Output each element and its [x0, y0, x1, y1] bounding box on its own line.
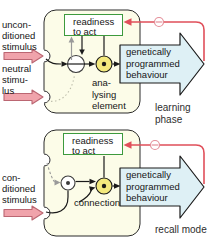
label-line: stimulus	[2, 194, 37, 205]
readiness-to-act-box-bottom: readiness to act	[63, 133, 123, 155]
readiness-to-act-box-top: readiness to act	[64, 14, 123, 36]
caption-line: learning	[155, 102, 191, 114]
unconditioned-stimulus-label: uncon- ditioned stimulus	[2, 19, 37, 52]
readiness-line2: to act	[72, 146, 122, 156]
analysing-element-label: ana- lysing element	[92, 77, 126, 112]
label-line: genetically	[126, 46, 180, 58]
label-line: programmed	[126, 181, 180, 193]
minus-circle-icon	[151, 141, 160, 150]
minus-circle-icon	[155, 18, 164, 27]
label-line: behaviour	[126, 69, 180, 81]
label-line: element	[92, 100, 126, 112]
label-line: genetically	[126, 169, 180, 181]
label-line: behaviour	[126, 192, 180, 204]
neutral-stimulus-label: neutral stimu- lus	[2, 63, 31, 96]
label-line: stimulus	[2, 41, 37, 52]
label-line: ana-	[92, 77, 126, 89]
label-line: con-	[2, 172, 37, 183]
label-line: uncon-	[2, 19, 37, 30]
connection-dot	[66, 181, 70, 185]
label-line: lus	[2, 85, 31, 96]
behaviour-label-top: genetically programmed behaviour	[126, 46, 180, 81]
label-line: stimu-	[2, 74, 31, 85]
learning-phase-caption: learning phase	[155, 102, 191, 126]
readiness-line2: to act	[73, 27, 122, 37]
conditioned-stimulus-label: con- ditioned stimulus	[2, 172, 37, 205]
conditioning-diagram: readiness to act readiness to act uncon-…	[0, 0, 212, 244]
label-line: neutral	[2, 63, 31, 74]
label-line: programmed	[126, 58, 180, 70]
recall-mode-caption: recall mode	[155, 224, 207, 236]
label-line: lysing	[92, 89, 126, 101]
connection-label: connection	[74, 197, 120, 208]
behaviour-label-bottom: genetically programmed behaviour	[126, 169, 180, 204]
label-line: ditioned	[2, 30, 37, 41]
analysing-element-dot	[102, 184, 106, 188]
analysing-element-dot	[102, 62, 106, 66]
conditioned-stimulus-arrow	[4, 206, 43, 220]
caption-line: phase	[155, 114, 191, 126]
label-line: ditioned	[2, 183, 37, 194]
